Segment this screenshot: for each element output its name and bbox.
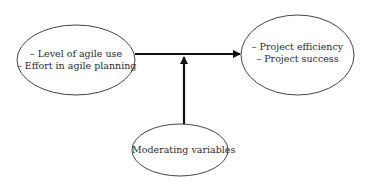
dependent-variables-label: – Project efficiency – Project success xyxy=(241,41,354,65)
moderator-line-1: Moderating variables xyxy=(132,144,228,156)
independent-variables-label: – Level of agile use – Effort in agile p… xyxy=(17,48,135,72)
independent-line-2: – Effort in agile planning xyxy=(17,60,135,72)
dependent-line-1: – Project efficiency xyxy=(241,41,354,53)
dependent-line-2: – Project success xyxy=(241,53,354,65)
moderating-variables-label: Moderating variables xyxy=(132,144,228,156)
independent-line-1: – Level of agile use xyxy=(17,48,135,60)
